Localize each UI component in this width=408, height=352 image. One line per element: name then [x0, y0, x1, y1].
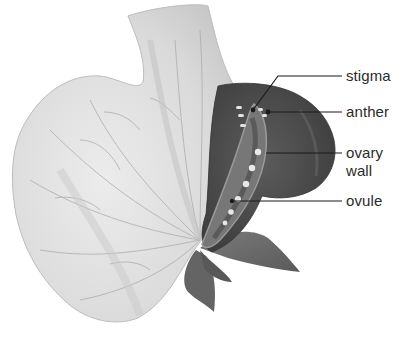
label-stigma: stigma [346, 67, 391, 84]
clipped-caption [30, 345, 240, 352]
label-anther: anther [346, 103, 389, 120]
flower-diagram: stigma anther ovary wall ovule [0, 0, 408, 352]
label-ovule: ovule [346, 192, 382, 209]
label-ovary-wall-line1: ovary [346, 144, 383, 161]
label-ovary-wall-line2: wall [346, 162, 372, 179]
